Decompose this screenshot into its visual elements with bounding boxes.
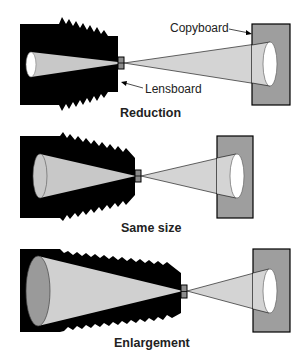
panel-reduction [20, 17, 290, 111]
projection-cone [124, 42, 270, 86]
copyboard-label: Copyboard [170, 22, 229, 34]
reproduction-camera-diagram: Copyboard Lensboard Reduction Same size … [0, 0, 308, 364]
copy-original [263, 269, 277, 313]
lensboard-arrow [125, 83, 143, 88]
copy-original [263, 42, 277, 86]
panel-enlargement [20, 249, 290, 332]
copy-original [230, 154, 244, 198]
ground-glass [26, 256, 50, 326]
caption-same-size: Same size [121, 222, 181, 235]
lensboard-label: Lensboard [145, 83, 202, 95]
ground-glass [26, 52, 36, 77]
diagram-canvas [0, 0, 308, 364]
caption-reduction: Reduction [120, 107, 181, 120]
caption-enlargement: Enlargement [114, 337, 190, 350]
panel-same-size [20, 132, 253, 221]
ground-glass [33, 154, 47, 198]
